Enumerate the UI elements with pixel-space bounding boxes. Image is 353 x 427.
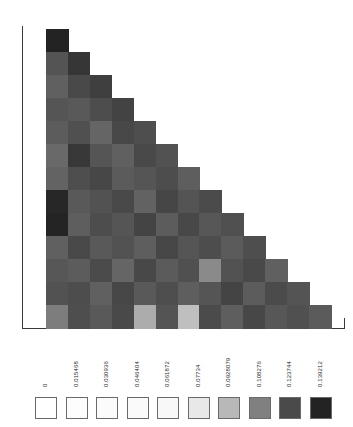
heatmap-cell [46, 282, 69, 306]
heatmap-cell [221, 305, 244, 329]
legend-swatch [127, 397, 149, 419]
heatmap-cell [90, 121, 113, 145]
legend-label: 0.123744 [286, 361, 292, 387]
legend-label: 0.07734 [195, 365, 201, 387]
heatmap-cell [112, 121, 135, 145]
heatmap-cell [221, 213, 244, 237]
heatmap-cell [68, 98, 91, 122]
heatmap-cell [287, 282, 310, 306]
legend-entry: 0.123744 [275, 397, 305, 419]
heatmap-cell [90, 259, 113, 283]
legend-label: 0.015468 [73, 361, 79, 387]
heatmap-cell [46, 29, 69, 53]
heatmap-cell [90, 305, 113, 329]
heatmap-cell [265, 259, 288, 283]
heatmap-cell [46, 167, 69, 191]
heatmap-grid [46, 29, 331, 328]
heatmap-cell [178, 190, 201, 214]
heatmap-cell [46, 190, 69, 214]
heatmap-cell [243, 236, 266, 260]
heatmap-cell [90, 98, 113, 122]
legend-label: 0 [42, 384, 48, 387]
legend-swatch [157, 397, 179, 419]
heatmap-cell [46, 305, 69, 329]
heatmap-cell [134, 190, 157, 214]
heatmap-cell [178, 282, 201, 306]
heatmap-cell [243, 282, 266, 306]
heatmap-cell [112, 259, 135, 283]
legend-swatch [66, 397, 88, 419]
heatmap-cell [68, 52, 91, 76]
heatmap-cell [68, 236, 91, 260]
heatmap-cell [199, 213, 222, 237]
heatmap-cell [46, 144, 69, 168]
heatmap-cell [68, 213, 91, 237]
heatmap-cell [46, 52, 69, 76]
heatmap-cell [134, 305, 157, 329]
heatmap-cell [287, 305, 310, 329]
heatmap-cell [156, 282, 179, 306]
heatmap-cell [112, 213, 135, 237]
heatmap-cell [112, 98, 135, 122]
legend-swatch [310, 397, 332, 419]
heatmap-cell [46, 213, 69, 237]
heatmap-cell [156, 213, 179, 237]
legend-swatch [279, 397, 301, 419]
legend-label: 0.061872 [164, 361, 170, 387]
legend-entry: 0 [31, 397, 61, 419]
heatmap-cell [112, 282, 135, 306]
heatmap-cell [221, 236, 244, 260]
heatmap-cell [46, 236, 69, 260]
heatmap-cell [90, 167, 113, 191]
heatmap-cell [46, 98, 69, 122]
heatmap-cell [156, 259, 179, 283]
heatmap-cell [90, 75, 113, 99]
heatmap-cell [68, 167, 91, 191]
heatmap-cell [134, 282, 157, 306]
heatmap-cell [112, 305, 135, 329]
legend-swatch [96, 397, 118, 419]
heatmap-cell [90, 144, 113, 168]
heatmap-cell [134, 144, 157, 168]
legend-label: 0.046404 [134, 361, 140, 387]
heatmap-cell [265, 282, 288, 306]
heatmap-cell [112, 190, 135, 214]
legend-swatch [249, 397, 271, 419]
heatmap-cell [156, 190, 179, 214]
heatmap-cell [178, 236, 201, 260]
heatmap-cell [243, 259, 266, 283]
heatmap-cell [134, 236, 157, 260]
legend-label: 0.108276 [256, 361, 262, 387]
legend-label: 0.030936 [103, 361, 109, 387]
heatmap-cell [112, 144, 135, 168]
heatmap-cell [243, 305, 266, 329]
heatmap-cell [90, 236, 113, 260]
heatmap-cell [156, 144, 179, 168]
heatmap-cell [199, 259, 222, 283]
legend-entry: 0.030936 [92, 397, 122, 419]
heatmap-cell [112, 236, 135, 260]
heatmap-cell [134, 121, 157, 145]
legend-swatch [218, 397, 240, 419]
heatmap-cell [309, 305, 332, 329]
legend-entry: 0.07734 [184, 397, 214, 419]
heatmap-cell [178, 213, 201, 237]
heatmap-cell [178, 167, 201, 191]
heatmap-chart [0, 0, 353, 340]
heatmap-cell [112, 167, 135, 191]
heatmap-cell [90, 213, 113, 237]
heatmap-cell [265, 305, 288, 329]
legend-entry: 0.061872 [153, 397, 183, 419]
heatmap-cell [46, 259, 69, 283]
legend-entry: 0.0928079 [214, 397, 244, 419]
heatmap-cell [134, 167, 157, 191]
legend-swatch [188, 397, 210, 419]
heatmap-cell [221, 259, 244, 283]
legend-label: 0.139212 [317, 361, 323, 387]
heatmap-cell [68, 190, 91, 214]
heatmap-cell [199, 305, 222, 329]
heatmap-cell [156, 305, 179, 329]
legend-entry: 0.108276 [245, 397, 275, 419]
heatmap-cell [68, 259, 91, 283]
heatmap-cell [134, 213, 157, 237]
